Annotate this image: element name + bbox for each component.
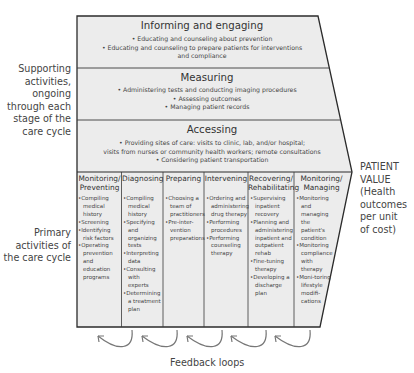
column-list-recovering-rehabilitating: Supervising inpatient recovery Planning … bbox=[250, 195, 293, 298]
column-header-monitoring-managing: Monitoring/ Managing bbox=[294, 174, 349, 192]
header-line: Monitoring/ bbox=[294, 174, 349, 183]
band-item: • Providing sites of care: visits to cli… bbox=[77, 139, 347, 148]
column-list-monitoring-managing: Monitoring and managing the patient's co… bbox=[296, 195, 334, 306]
label-line: per unit bbox=[360, 211, 414, 224]
label-line: of cost) bbox=[360, 224, 414, 237]
column-list-preparing: Choosing a team of practitioners Pre-int… bbox=[165, 195, 203, 242]
band-item: • Administering tests and conducting ima… bbox=[77, 86, 337, 95]
list-item: Choosing a team of practitioners bbox=[165, 195, 203, 219]
patient-value-label: PATIENT VALUE (Health outcomes per unit … bbox=[360, 161, 414, 237]
label-line: VALUE bbox=[360, 174, 414, 187]
feedback-arrow-icon bbox=[187, 330, 222, 347]
list-item: Specifying and organizing tests bbox=[123, 219, 162, 251]
label-line: care cycle bbox=[0, 126, 71, 139]
list-item: Monitoring and managing the patient's co… bbox=[296, 195, 334, 242]
header-line: Recovering/ bbox=[248, 174, 294, 183]
list-item: Performing counseling therapy bbox=[206, 235, 247, 259]
feedback-arrow-icon bbox=[275, 330, 310, 347]
list-item: Operating prevention and education progr… bbox=[78, 242, 121, 282]
list-item: Ordering and administering drug therapy bbox=[206, 195, 247, 219]
feedback-loops-label: Feedback loops bbox=[170, 357, 244, 368]
list-item: Moni-toring lifestyle modifi-cations bbox=[296, 274, 334, 306]
list-item: Planning and administering inpatient and… bbox=[250, 219, 293, 259]
band-title-informing: Informing and engaging bbox=[77, 20, 327, 31]
label-line: stage of the bbox=[0, 113, 71, 126]
feedback-arrow-icon bbox=[98, 330, 132, 347]
column-list-monitoring-preventing: Compiling medical history Screening Iden… bbox=[78, 195, 121, 282]
feedback-arrow-icon bbox=[142, 330, 177, 347]
label-line: through each bbox=[0, 101, 71, 114]
header-line: Rehabilitating bbox=[248, 183, 294, 192]
label-line: the care cycle bbox=[0, 252, 71, 265]
header-line: Diagnosing bbox=[122, 174, 163, 183]
column-header-recovering-rehabilitating: Recovering/ Rehabilitating bbox=[248, 174, 294, 192]
band-item: visits from nurses or community health w… bbox=[77, 148, 347, 157]
header-line: Monitoring/ bbox=[77, 174, 122, 183]
column-header-preparing: Preparing bbox=[163, 174, 204, 183]
label-line: PATIENT bbox=[360, 161, 414, 174]
band-item: • Assessing outcomes bbox=[77, 95, 337, 104]
column-list-intervening: Ordering and administering drug therapy … bbox=[206, 195, 247, 258]
list-item: Supervising inpatient recovery bbox=[250, 195, 293, 219]
list-item: Compiling medical history bbox=[78, 195, 121, 219]
list-item: Screening bbox=[78, 219, 121, 227]
feedback-arrows bbox=[98, 330, 310, 347]
header-line: Preventing bbox=[77, 183, 122, 192]
label-line: outcomes bbox=[360, 199, 414, 212]
band-body-informing: • Educating and counseling about prevent… bbox=[77, 35, 327, 61]
label-line: Primary bbox=[0, 227, 71, 240]
label-line: ongoing bbox=[0, 88, 71, 101]
band-item: • Educating and counseling about prevent… bbox=[77, 35, 327, 44]
column-header-diagnosing: Diagnosing bbox=[122, 174, 163, 183]
label-line: Supporting bbox=[0, 63, 71, 76]
list-item: Consulting with experts bbox=[123, 266, 162, 290]
band-item: • Educating and counseling to prepare pa… bbox=[77, 44, 327, 53]
list-item: Developing a discharge plan bbox=[250, 274, 293, 298]
band-body-accessing: • Providing sites of care: visits to cli… bbox=[77, 139, 347, 165]
header-line: Intervening bbox=[204, 174, 248, 183]
column-header-intervening: Intervening bbox=[204, 174, 248, 183]
label-line: activities of bbox=[0, 240, 71, 253]
list-item: Monitoring compliance with therapy bbox=[296, 242, 334, 274]
feedback-arrow-icon bbox=[231, 330, 266, 347]
list-item: Determining a treatment plan bbox=[123, 290, 162, 314]
list-item: Fine-tuning therapy bbox=[250, 258, 293, 274]
list-item: Compiling medical history bbox=[123, 195, 162, 219]
header-line: Preparing bbox=[163, 174, 204, 183]
label-line: activities, bbox=[0, 76, 71, 89]
band-item: • Considering patient transportation bbox=[77, 156, 347, 165]
band-item: • Managing patient records bbox=[77, 103, 337, 112]
list-item: Performing procedures bbox=[206, 219, 247, 235]
column-header-monitoring-preventing: Monitoring/ Preventing bbox=[77, 174, 122, 192]
primary-activities-label: Primary activities of the care cycle bbox=[0, 227, 71, 265]
header-line: Managing bbox=[294, 183, 349, 192]
list-item: Pre-inter-vention preparations bbox=[165, 219, 203, 243]
label-line: (Health bbox=[360, 186, 414, 199]
band-title-accessing: Accessing bbox=[77, 124, 347, 135]
band-title-measuring: Measuring bbox=[77, 72, 337, 83]
column-list-diagnosing: Compiling medical history Specifying and… bbox=[123, 195, 162, 314]
list-item: Identifying risk factors bbox=[78, 227, 121, 243]
band-body-measuring: • Administering tests and conducting ima… bbox=[77, 86, 337, 112]
band-item: and compliance bbox=[77, 52, 327, 61]
list-item: Interpreting data bbox=[123, 250, 162, 266]
supporting-activities-label: Supporting activities, ongoing through e… bbox=[0, 63, 71, 139]
